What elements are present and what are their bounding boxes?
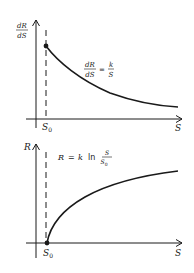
svg-text:dR: dR [17, 22, 27, 30]
bottom-s0-label: S0 [43, 248, 53, 259]
top-formula-annotation: dR dS = k S [84, 61, 114, 79]
svg-text:ln: ln [88, 153, 95, 162]
bottom-formula-annotation: R = k ln S S0 [57, 149, 112, 167]
top-x-axis-label: S [175, 123, 181, 133]
svg-text:k: k [78, 153, 83, 162]
svg-text:=: = [68, 153, 75, 162]
svg-text:=: = [99, 66, 105, 74]
svg-text:S: S [105, 149, 109, 156]
top-s0-label: S0 [42, 122, 52, 133]
bottom-chart: R R = k ln S S0 S0 S [23, 142, 182, 259]
svg-text:k: k [109, 61, 113, 69]
svg-text:R: R [57, 153, 64, 162]
bottom-log-curve [47, 171, 178, 243]
top-s0-point [44, 44, 49, 49]
svg-text:S0: S0 [101, 158, 108, 167]
bottom-y-axis-label: R [23, 142, 31, 152]
svg-text:dR: dR [85, 61, 95, 69]
bottom-x-axis-label: S [175, 248, 181, 258]
svg-text:dS: dS [85, 71, 94, 79]
bottom-s0-point [45, 241, 50, 246]
top-chart: dR dS dR dS = k S S0 S [16, 20, 182, 133]
diagram-canvas: dR dS dR dS = k S S0 S R R = k ln [0, 0, 194, 273]
top-y-axis-label: dR dS [16, 22, 28, 40]
svg-text:S: S [109, 71, 114, 79]
svg-text:dS: dS [17, 32, 26, 40]
